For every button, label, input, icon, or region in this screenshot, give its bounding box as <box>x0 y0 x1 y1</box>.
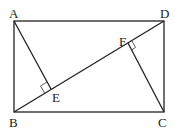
label-b: B <box>9 115 18 130</box>
right-angle-mark-e <box>41 82 48 93</box>
label-f: F <box>119 34 126 49</box>
label-d: D <box>160 6 169 21</box>
label-c: C <box>158 115 167 130</box>
diagonal-bd <box>14 21 164 112</box>
geometry-diagram: A D B C E F <box>0 0 177 135</box>
label-a: A <box>9 6 19 21</box>
right-angle-mark-f <box>132 41 136 50</box>
segment-cf <box>128 43 164 112</box>
label-e: E <box>52 90 60 105</box>
segment-ae <box>14 21 51 89</box>
